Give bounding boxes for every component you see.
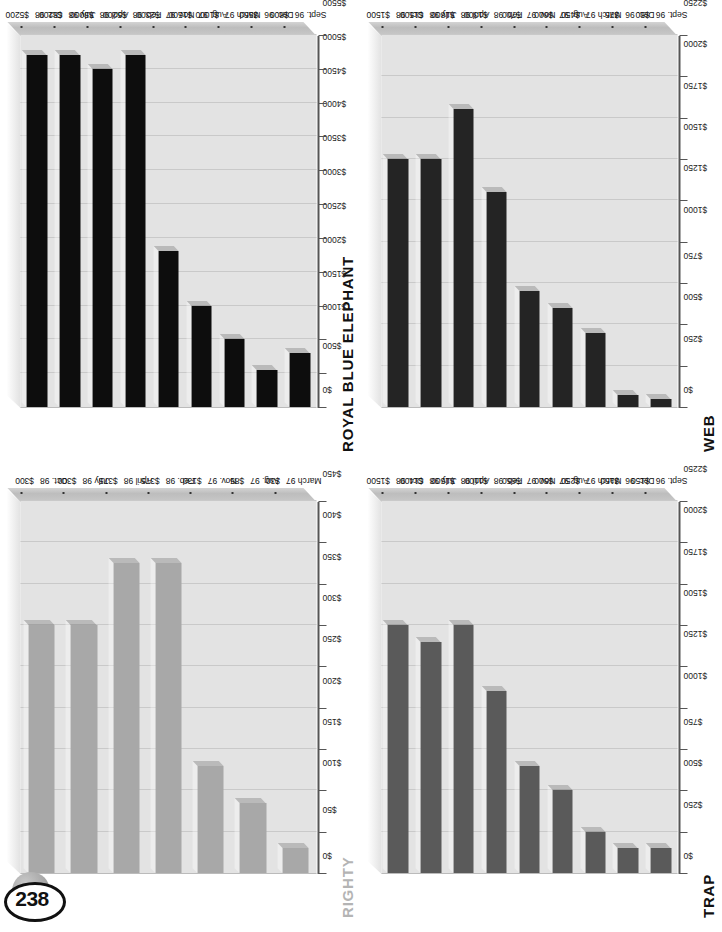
category-name: Feb. 98	[132, 10, 161, 20]
category-value: $1500	[366, 10, 390, 20]
category-tick	[644, 492, 646, 494]
bar	[585, 333, 605, 407]
category-tick	[545, 492, 547, 494]
axis-tick-label: $2000	[683, 506, 707, 516]
category-name: April 98	[99, 10, 128, 20]
category-name: Sept. 96	[655, 476, 687, 486]
bar-3d-side	[235, 798, 266, 803]
bar	[617, 395, 637, 407]
bar-3d-side	[193, 761, 224, 766]
category-name: July 98	[429, 476, 456, 486]
bar-3d-top	[580, 827, 585, 873]
axis-tick-label: $1000	[683, 205, 707, 215]
plot-3d-top-face	[6, 489, 20, 874]
gridline	[381, 624, 677, 625]
bar-3d-top	[251, 365, 256, 407]
category-label: Oct. 98$5200	[5, 10, 62, 20]
gridline	[381, 117, 677, 118]
category-name: Dec. 96	[263, 10, 292, 20]
category-name: March 97	[285, 476, 320, 486]
chart-trap: TRAP$0$250$500$750$1000$1250$1500$1750$2…	[361, 466, 722, 932]
category-name: Aug. 97	[559, 476, 588, 486]
figure-page: ROYAL BLUE ELEPHANT$0$500$1000$1500$2000…	[0, 0, 722, 932]
plot-3d-top-face	[367, 23, 381, 408]
axis-tick-label: $300	[322, 593, 341, 603]
bar-3d-side	[277, 843, 308, 848]
category-name: Nov. 97	[165, 10, 194, 20]
bar-3d-top	[580, 328, 585, 407]
category-tick	[480, 26, 482, 28]
bar	[239, 803, 265, 873]
axis-tick-label: $500	[683, 292, 702, 302]
category-name: July 98	[68, 10, 95, 20]
axis-tick-label: $4000	[322, 100, 346, 110]
axis-tick-label: $2500	[322, 201, 346, 211]
plot-3d-top-face	[367, 489, 381, 874]
axis-tick-label: $1500	[683, 122, 707, 132]
category-tick	[53, 26, 55, 28]
category-tick	[644, 26, 646, 28]
axis-tick-label: $1750	[683, 81, 707, 91]
category-name: Oct. 98	[35, 10, 62, 20]
axis-tick-label: $5000	[322, 32, 346, 42]
category-name: Feb. 98	[493, 10, 522, 20]
bar	[486, 691, 506, 873]
bar	[191, 306, 211, 407]
category-tick	[250, 26, 252, 28]
category-tick	[545, 26, 547, 28]
axis-tick-label: $1750	[683, 547, 707, 557]
category-name: March 97	[585, 10, 620, 20]
category-name: Sept. 96	[655, 10, 687, 20]
category-tick	[283, 26, 285, 28]
axis-tick-label: $200	[322, 676, 341, 686]
category-name: Dec. 96	[624, 10, 653, 20]
bar	[387, 159, 407, 407]
bar	[519, 766, 539, 873]
bar-3d-side	[383, 620, 408, 625]
category-tick	[189, 492, 191, 494]
category-name: Feb. 98	[493, 476, 522, 486]
value-axis	[317, 502, 319, 874]
bar-3d-top	[547, 303, 552, 407]
bar-3d-top	[448, 620, 453, 873]
category-tick	[480, 492, 482, 494]
category-name: Nov. 97	[208, 476, 237, 486]
plot-area: $0$250$500$750$1000$1250$1500$1750$2000$…	[381, 502, 677, 874]
axis-tick-label: $0	[683, 851, 692, 861]
axis-tick-label: $350	[322, 552, 341, 562]
axis-tick-label: $2000	[322, 235, 346, 245]
bar-3d-side	[415, 637, 440, 642]
axis-tick-label: $450	[322, 469, 341, 479]
category-tick	[231, 492, 233, 494]
bar-3d-side	[54, 50, 79, 55]
category-name: Oct. 98	[396, 476, 423, 486]
bar	[420, 159, 440, 407]
bar	[650, 848, 670, 873]
bar-3d-top	[23, 620, 28, 873]
category-name: March 97	[585, 476, 620, 486]
bar-3d-top	[234, 798, 239, 873]
chart-righty: RIGHTY$0$50$100$150$200$250$300$350$400$…	[0, 466, 361, 932]
category-tick	[414, 26, 416, 28]
bar-3d-side	[580, 827, 605, 832]
bar-3d-side	[481, 686, 506, 691]
plot-canvas	[20, 501, 316, 874]
chart-title: WEB	[699, 415, 716, 452]
category-name: Oct. 98	[40, 476, 67, 486]
axis-tick-label: $1250	[683, 164, 707, 174]
category-tick	[381, 492, 383, 494]
axis-tick-label: $4500	[322, 66, 346, 76]
chart-title: ROYAL BLUE ELEPHANT	[338, 256, 355, 452]
axis-tick-label: $250	[683, 800, 702, 810]
plot-canvas	[381, 35, 677, 408]
category-tick	[611, 26, 613, 28]
axis-tick-label: $1500	[322, 269, 346, 279]
bar-3d-side	[150, 558, 181, 563]
axis-tick-label: $150	[322, 717, 341, 727]
bar-3d-side	[481, 187, 506, 192]
category-name: Aug. 97	[198, 10, 227, 20]
bar-3d-side	[646, 843, 671, 848]
bar	[289, 353, 309, 407]
bar-3d-side	[22, 50, 47, 55]
category-tick	[447, 492, 449, 494]
